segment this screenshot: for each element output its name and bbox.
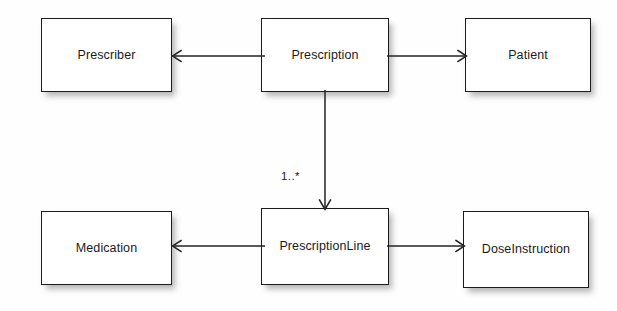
node-prescription[interactable]: Prescription: [261, 18, 389, 92]
node-prescription-line-label: PrescriptionLine: [279, 240, 370, 253]
node-prescription-line[interactable]: PrescriptionLine: [261, 208, 389, 285]
edge-prescription-to-patient: [387, 47, 469, 65]
node-patient[interactable]: Patient: [465, 18, 591, 92]
edge-prescription-to-prescription-line: [315, 90, 337, 212]
node-dose-instruction[interactable]: DoseInstruction: [463, 211, 589, 288]
node-medication[interactable]: Medication: [41, 211, 172, 285]
diagram-canvas: Prescriber Prescription Patient Medicati…: [0, 0, 617, 311]
node-dose-instruction-label: DoseInstruction: [482, 243, 570, 256]
node-prescriber[interactable]: Prescriber: [41, 18, 172, 92]
node-prescriber-label: Prescriber: [78, 49, 136, 62]
edge-prescription-line-to-medication: [170, 237, 265, 255]
edge-prescription-line-to-dose-instruction: [387, 237, 467, 255]
node-patient-label: Patient: [508, 49, 548, 62]
multiplicity-label-prescription-line: 1..*: [281, 170, 300, 182]
node-prescription-label: Prescription: [291, 49, 358, 62]
node-medication-label: Medication: [76, 242, 137, 255]
edge-prescription-to-prescriber: [170, 47, 265, 65]
